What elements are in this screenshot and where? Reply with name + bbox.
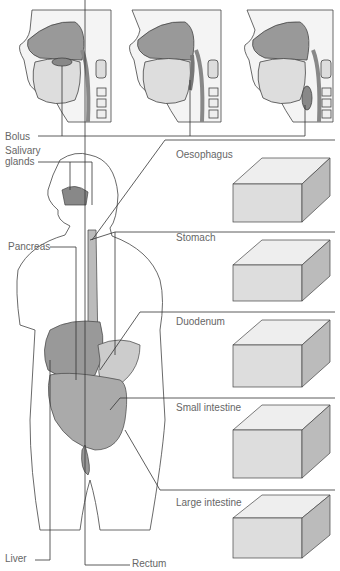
label-salivary: Salivary (5, 145, 41, 156)
swallow-panel-2 (130, 10, 222, 122)
label-bolus: Bolus (5, 131, 30, 142)
label-oesophagus: Oesophagus (176, 149, 233, 160)
tissue-small-intestine (233, 405, 330, 478)
label-pancreas: Pancreas (8, 241, 50, 252)
tissue-stomach (233, 240, 330, 301)
label-rectum: Rectum (132, 558, 166, 569)
tissue-large-intestine (233, 495, 330, 558)
label-glands: glands (5, 156, 34, 167)
label-liver: Liver (5, 553, 27, 564)
tissue-oesophagus (233, 158, 330, 222)
diagram-canvas (0, 0, 340, 571)
swallow-panel-1 (20, 10, 112, 122)
label-small-intestine: Small intestine (176, 402, 241, 413)
label-large-intestine: Large intestine (176, 497, 242, 508)
label-stomach: Stomach (176, 232, 215, 243)
tissue-duodenum (233, 320, 330, 387)
swallow-panel-3 (245, 10, 334, 122)
label-duodenum: Duodenum (176, 316, 225, 327)
